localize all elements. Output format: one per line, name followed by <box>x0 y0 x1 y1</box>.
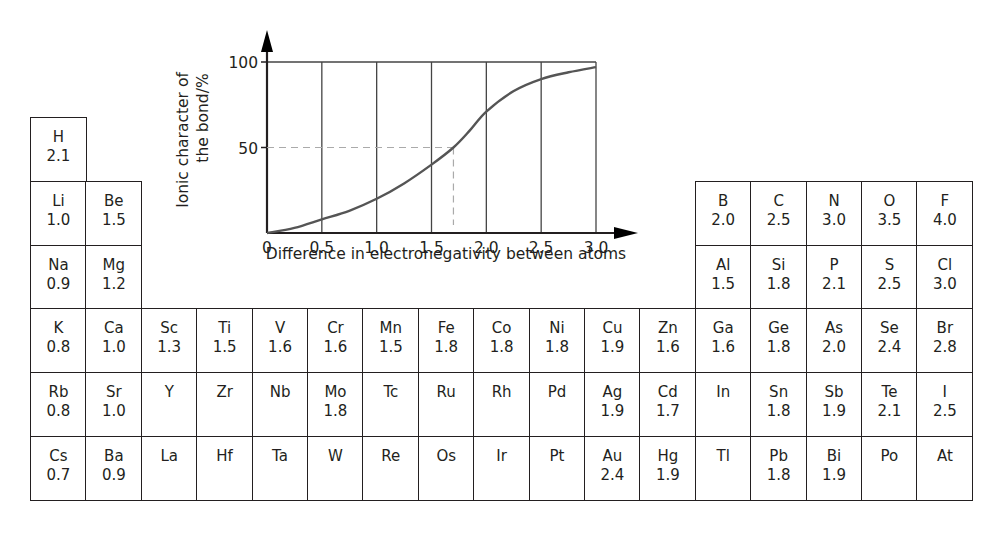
y-axis-label: Ionic character of the bond/% <box>174 72 212 208</box>
y-tick-label: 50 <box>238 140 258 158</box>
x-axis-label: Difference in electronegativity between … <box>266 245 626 263</box>
y-axis-arrow <box>261 30 273 52</box>
y-axis-label-line-2: the bond/% <box>194 73 212 162</box>
tick-labels: 00.51.01.52.02.53.050100 <box>228 54 608 257</box>
dashed-guides <box>267 148 453 226</box>
x-axis-arrow <box>614 227 638 239</box>
y-axis-label-line-1: Ionic character of <box>174 72 192 208</box>
ionic-character-chart: 00.51.01.52.02.53.050100 Difference in e… <box>0 0 996 537</box>
y-tick-label: 100 <box>228 54 258 72</box>
